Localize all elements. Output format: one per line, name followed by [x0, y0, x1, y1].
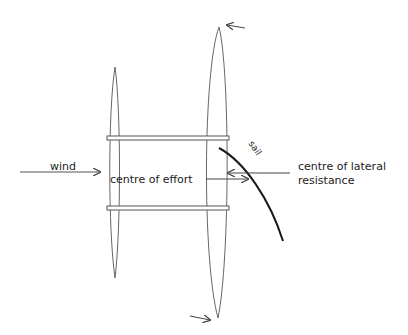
clr-label-line1: centre of lateral [298, 160, 386, 173]
sail-label: sail [247, 139, 264, 157]
rotation-arrow-bottom-icon [190, 316, 210, 320]
rotation-arrow-top-icon [227, 25, 245, 28]
sail-curve [219, 148, 283, 241]
right-hull [206, 27, 227, 318]
clr-label-line2: resistance [298, 174, 355, 187]
wind-label: wind [50, 160, 76, 173]
rear-crossbeam [107, 206, 229, 210]
centre-of-effort-label: centre of effort [110, 173, 193, 186]
catamaran-diagram: wind centre of effort sail centre of lat… [0, 0, 408, 335]
front-crossbeam [107, 136, 229, 140]
